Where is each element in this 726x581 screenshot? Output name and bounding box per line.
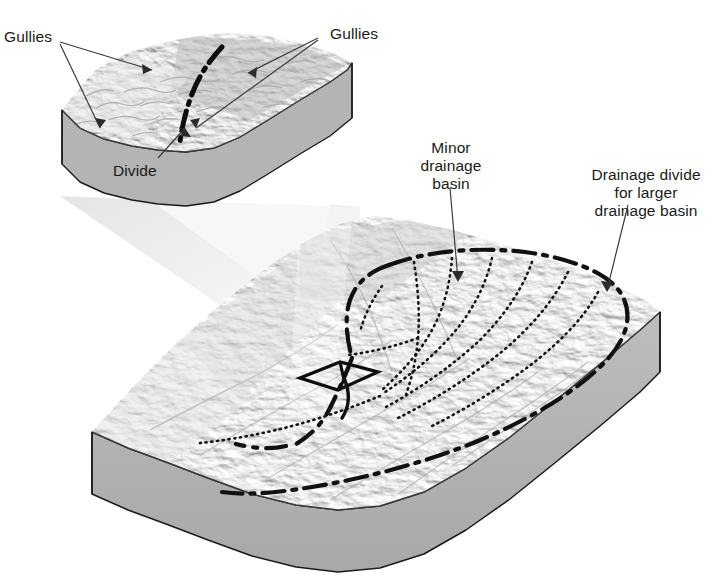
label-minor-drainage-basin-line2: drainage (408, 157, 494, 175)
label-drainage-divide-line2: for larger (570, 184, 722, 202)
label-gullies-left: Gullies (4, 28, 52, 46)
label-gullies-right: Gullies (330, 25, 378, 43)
label-drainage-divide-line1: Drainage divide (570, 166, 722, 184)
label-minor-drainage-basin-line1: Minor (408, 139, 494, 157)
label-divide: Divide (113, 162, 157, 180)
label-drainage-divide-line3: drainage basin (570, 202, 722, 220)
block-diagram-artwork (0, 0, 726, 581)
label-minor-drainage-basin-line3: basin (408, 175, 494, 193)
figure-canvas: Gullies Gullies Divide Minor drainage ba… (0, 0, 726, 581)
